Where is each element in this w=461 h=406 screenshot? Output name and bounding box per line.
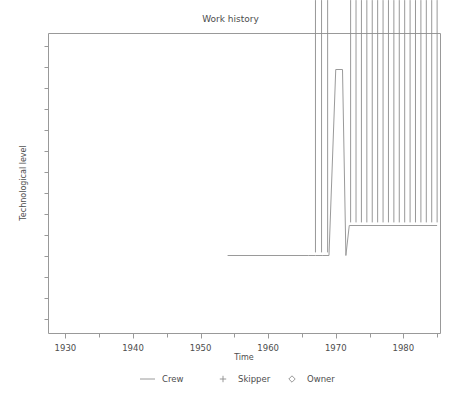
legend-label-skipper: Skipper bbox=[238, 374, 271, 384]
x-tick-label-1950: 1950 bbox=[190, 343, 212, 353]
legend-item-owner[interactable]: Owner bbox=[289, 374, 335, 384]
x-tick-label-1940: 1940 bbox=[122, 343, 144, 353]
legend-diamond-icon bbox=[289, 376, 295, 382]
y-axis-ticks bbox=[45, 47, 49, 320]
x-axis-label: Time bbox=[233, 353, 254, 362]
series-crew bbox=[228, 70, 438, 256]
x-axis-tick-labels: 193019401950196019701980 bbox=[55, 343, 415, 353]
series-line-crew bbox=[228, 70, 438, 256]
legend-item-crew[interactable]: Crew bbox=[140, 374, 183, 384]
y-axis-label: Technological level bbox=[19, 145, 28, 221]
x-tick-label-1980: 1980 bbox=[393, 343, 415, 353]
axes-frame bbox=[49, 34, 441, 334]
x-tick-label-1970: 1970 bbox=[325, 343, 347, 353]
chart-legend: CrewSkipperOwner bbox=[140, 374, 335, 384]
data-series-layer bbox=[228, 0, 438, 255]
work-history-chart: Work history 193019401950196019701980 Ti… bbox=[0, 0, 461, 406]
legend-plus-icon bbox=[220, 376, 226, 382]
x-tick-label-1960: 1960 bbox=[257, 343, 279, 353]
legend-label-crew: Crew bbox=[162, 374, 183, 384]
legend-label-owner: Owner bbox=[307, 374, 335, 384]
chart-title: Work history bbox=[202, 14, 259, 24]
chart-canvas: Work history 193019401950196019701980 Ti… bbox=[0, 0, 461, 406]
axis-spines bbox=[49, 34, 441, 334]
x-tick-label-1930: 1930 bbox=[55, 343, 77, 353]
legend-item-skipper[interactable]: Skipper bbox=[220, 374, 271, 384]
x-axis-ticks bbox=[66, 334, 438, 339]
